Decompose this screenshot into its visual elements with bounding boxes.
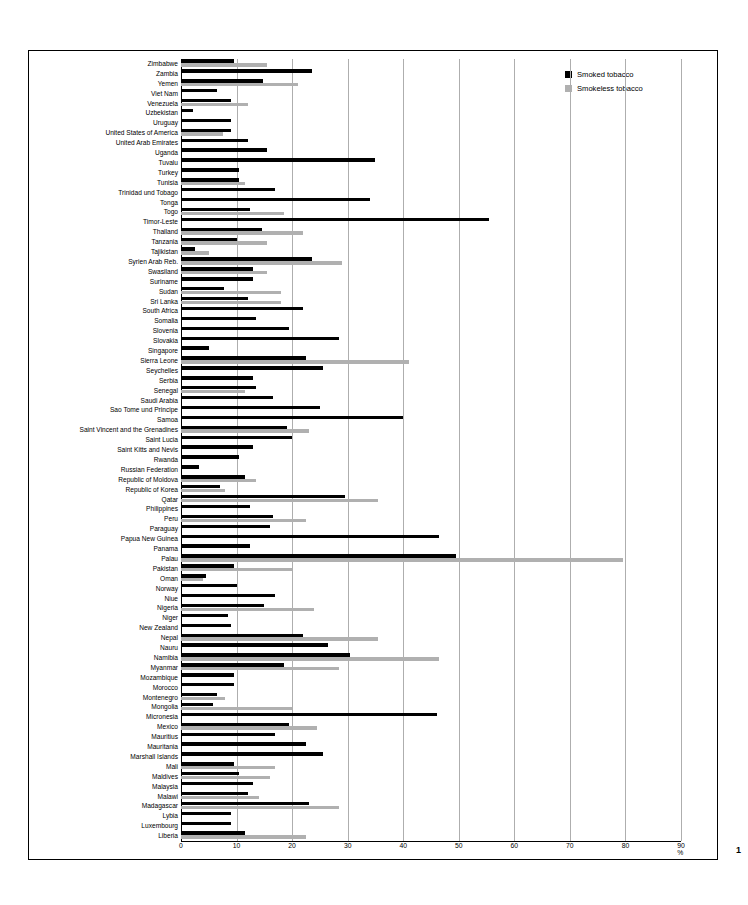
category-label: Mexico — [157, 722, 178, 732]
category-label: Mali — [166, 762, 178, 772]
bar-row: Tonga — [181, 198, 681, 208]
bar-smoked — [181, 337, 339, 340]
category-label: Slovenia — [153, 326, 178, 336]
bar-smokeless — [181, 776, 270, 779]
bar-row: Nigeria — [181, 603, 681, 613]
category-label: Saint Vincent and the Grenadines — [80, 425, 179, 435]
category-label: Saint Kitts and Nevis — [117, 445, 178, 455]
category-label: Norway — [156, 584, 178, 594]
category-label: United Arab Emirates — [116, 138, 178, 148]
bar-smoked — [181, 148, 267, 151]
bar-smokeless — [181, 231, 303, 234]
bar-smoked — [181, 455, 239, 458]
bar-smoked — [181, 198, 370, 201]
bar-row: Nauru — [181, 643, 681, 653]
category-label: Viet Nam — [151, 89, 178, 99]
bar-row: Timor-Leste — [181, 217, 681, 227]
bar-smokeless — [181, 182, 245, 185]
bar-smokeless — [181, 261, 342, 264]
category-label: United States of America — [105, 128, 178, 138]
bar-smokeless — [181, 637, 378, 640]
bar-smoked — [181, 436, 292, 439]
category-label: Yemen — [158, 79, 178, 89]
category-label: Rwanda — [154, 455, 178, 465]
x-tick-label: 70 — [566, 842, 574, 849]
bar-row: Venezuela — [181, 99, 681, 109]
category-label: Seychelles — [146, 366, 178, 376]
bar-smokeless — [181, 429, 309, 432]
category-label: Myanmar — [151, 663, 178, 673]
bar-smoked — [181, 158, 375, 161]
bar-row: Montenegro — [181, 693, 681, 703]
bar-smoked — [181, 119, 231, 122]
category-label: Samoa — [157, 415, 178, 425]
bar-smokeless — [181, 578, 203, 581]
x-tick-label: 20 — [288, 842, 296, 849]
bar-row: Seychelles — [181, 366, 681, 376]
bar-smoked — [181, 643, 328, 646]
bar-row: Sudan — [181, 287, 681, 297]
bar-row: Syrien Arab Reb. — [181, 257, 681, 267]
x-tick-label: 10 — [233, 842, 241, 849]
chart-page: Smoked tobacco Smokeless tobacco Zimbabw… — [0, 0, 748, 905]
bar-row: Luxembourg — [181, 821, 681, 831]
bar-row: Sao Tome und Principe — [181, 405, 681, 415]
category-label: Saudi Arabia — [141, 396, 178, 406]
bar-smoked — [181, 465, 199, 468]
bar-row: Nepal — [181, 633, 681, 643]
bar-smoked — [181, 277, 253, 280]
category-label: Venezuela — [147, 99, 178, 109]
bar-smokeless — [181, 766, 275, 769]
bar-row: Liberia — [181, 831, 681, 841]
bar-smokeless — [181, 499, 378, 502]
category-label: Zimbabwe — [148, 59, 178, 69]
bar-rows: ZimbabweZambiaYemenViet NamVenezuelaUzbe… — [181, 59, 681, 841]
bar-smoked — [181, 109, 193, 112]
bar-smokeless — [181, 835, 306, 838]
category-label: Uruguay — [153, 118, 178, 128]
bar-smoked — [181, 139, 248, 142]
bar-smoked — [181, 445, 253, 448]
x-tick-label: 50 — [455, 842, 463, 849]
category-label: Pakistan — [153, 564, 178, 574]
bar-smokeless — [181, 558, 623, 561]
bar-smokeless — [181, 271, 267, 274]
category-label: Swasiland — [148, 267, 178, 277]
bar-smokeless — [181, 212, 284, 215]
bar-row: Suriname — [181, 277, 681, 287]
category-label: Republic of Korea — [126, 485, 178, 495]
bar-smoked — [181, 396, 273, 399]
bar-row: Rwanda — [181, 455, 681, 465]
category-label: Micronesia — [146, 712, 178, 722]
gridline-90 — [681, 59, 682, 841]
category-label: Tonga — [160, 198, 178, 208]
category-label: Serbia — [159, 376, 178, 386]
category-label: Singapore — [148, 346, 178, 356]
bar-smoked — [181, 416, 403, 419]
bar-row: Panama — [181, 544, 681, 554]
bar-smoked — [181, 624, 231, 627]
bar-row: Turkey — [181, 168, 681, 178]
bar-row: Niue — [181, 594, 681, 604]
bar-row: Tanzania — [181, 237, 681, 247]
bar-row: Uzbekistan — [181, 108, 681, 118]
category-label: Niger — [162, 613, 178, 623]
page-number: 1 — [736, 845, 741, 855]
bar-row: New Zealand — [181, 623, 681, 633]
category-label: Suriname — [150, 277, 178, 287]
category-label: Nauru — [160, 643, 178, 653]
bar-smokeless — [181, 667, 339, 670]
category-label: Timor-Leste — [143, 217, 178, 227]
bar-smokeless — [181, 63, 267, 66]
category-label: Papua New Guinea — [121, 534, 178, 544]
category-label: Niue — [164, 594, 178, 604]
bar-row: Papua New Guinea — [181, 534, 681, 544]
bar-row: Norway — [181, 584, 681, 594]
bar-row: Niger — [181, 613, 681, 623]
category-label: New Zealand — [139, 623, 178, 633]
category-label: Russian Federation — [121, 465, 178, 475]
bar-row: Tunisia — [181, 178, 681, 188]
category-label: Togo — [164, 207, 178, 217]
bar-row: Philippines — [181, 504, 681, 514]
bar-smoked — [181, 366, 323, 369]
